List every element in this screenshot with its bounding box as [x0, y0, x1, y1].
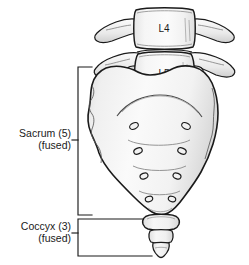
anatomy-figure: L4 L5	[0, 0, 249, 265]
coccyx-segment-3	[153, 242, 170, 257]
sacrum-bracket	[72, 67, 92, 215]
coccyx-label-line1: Coccyx (3)	[21, 220, 71, 232]
sacrum-label-line1: Sacrum (5)	[19, 127, 71, 139]
vertebra-label-l4: L4	[158, 23, 170, 34]
coccyx-bone	[143, 214, 180, 257]
sacrum-bone	[88, 66, 218, 215]
sacrum-outline	[88, 66, 218, 215]
coccyx-label-line2: (fused)	[38, 232, 71, 244]
coccyx-bracket	[72, 219, 152, 256]
coccyx-annotation: Coccyx (3) (fused)	[21, 220, 71, 244]
vertebra-l4-group: L4	[95, 8, 235, 50]
coccyx-segment-2	[149, 230, 173, 244]
sacrum-coccyx-illustration: L4 L5	[0, 0, 249, 265]
sacrum-annotation: Sacrum (5) (fused)	[19, 127, 71, 151]
sacrum-label-line2: (fused)	[38, 139, 71, 151]
